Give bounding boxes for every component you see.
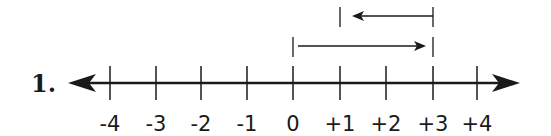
tick-label: +2 bbox=[371, 112, 402, 136]
tick-label: 0 bbox=[286, 112, 299, 136]
tick-label: -1 bbox=[237, 112, 258, 136]
tick-label: +4 bbox=[462, 112, 493, 136]
tick-label: -4 bbox=[100, 112, 121, 136]
problem-number: 1. bbox=[31, 69, 56, 98]
number-line: -4-3-2-10+1+2+3+4 bbox=[68, 66, 520, 136]
tick-label: +1 bbox=[325, 112, 356, 136]
number-line-diagram: 1. -4-3-2-10+1+2+3+4 bbox=[0, 0, 551, 136]
move-right-arrow bbox=[293, 37, 433, 57]
move-left-arrow bbox=[340, 7, 433, 27]
tick-label: -2 bbox=[191, 112, 212, 136]
number-line-svg: 1. -4-3-2-10+1+2+3+4 bbox=[0, 0, 551, 136]
tick-label: -3 bbox=[146, 112, 167, 136]
tick-label: +3 bbox=[418, 112, 449, 136]
tick-labels: -4-3-2-10+1+2+3+4 bbox=[100, 112, 493, 136]
